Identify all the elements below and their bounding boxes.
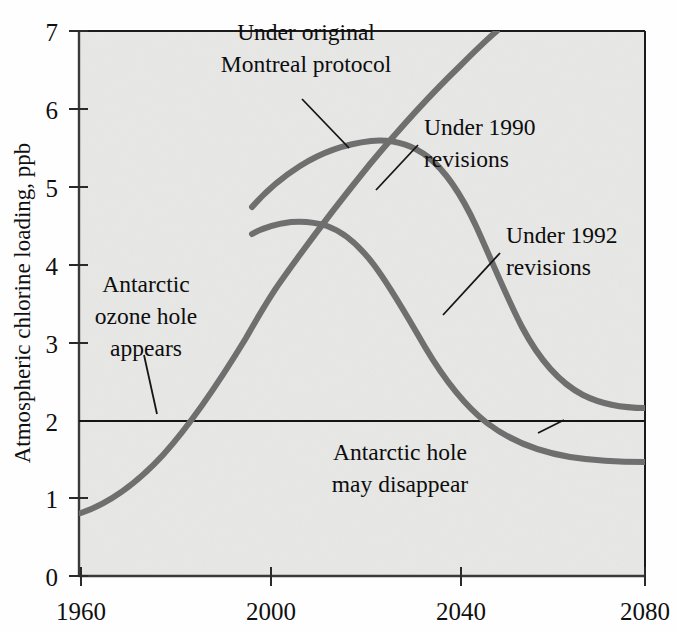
annotation-montreal-line2: Montreal protocol	[221, 51, 392, 77]
annotation-disappear-line2: may disappear	[332, 471, 469, 497]
y-tick-label-7: 7	[46, 19, 59, 46]
annotation-disappear-line1: Antarctic hole	[333, 439, 467, 465]
annotation-1990-line2: revisions	[424, 146, 509, 172]
y-tick-label-5: 5	[46, 175, 59, 202]
y-tick-label-6: 6	[46, 97, 59, 124]
y-tick-label-0: 0	[46, 564, 59, 591]
y-tick-label-2: 2	[46, 409, 59, 436]
annotation-1992-line1: Under 1992	[506, 222, 618, 248]
y-tick-label-1: 1	[46, 486, 59, 513]
chart-figure: Atmospheric chlorine loading, ppb 7 6 5 …	[0, 0, 676, 633]
x-tick-label-2080: 2080	[620, 598, 670, 625]
x-tick-label-2040: 2040	[436, 598, 486, 625]
annotation-ozone-line3: appears	[110, 335, 182, 361]
y-axis-label: Atmospheric chlorine loading, ppb	[10, 143, 35, 464]
y-tick-label-3: 3	[46, 331, 59, 358]
annotation-1992-line2: revisions	[506, 254, 591, 280]
annotation-ozone-line2: ozone hole	[95, 303, 197, 329]
annotation-1990-line1: Under 1990	[424, 114, 536, 140]
annotation-ozone-line1: Antarctic	[102, 271, 189, 297]
y-tick-label-4: 4	[46, 253, 59, 280]
x-tick-label-1960: 1960	[56, 598, 106, 625]
annotation-montreal-line1: Under original	[237, 19, 375, 45]
x-tick-label-2000: 2000	[246, 598, 296, 625]
chart-svg: Atmospheric chlorine loading, ppb 7 6 5 …	[0, 0, 676, 633]
